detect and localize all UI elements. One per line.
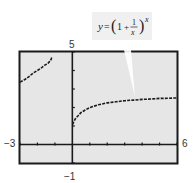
formula-denominator: x (130, 28, 135, 37)
xmin-label: −3 (4, 138, 16, 149)
formula-plus: + (124, 22, 129, 32)
formula-one: 1 (117, 21, 122, 32)
graphing-calculator-plot: y = ( 1 + 1 x ) x 5 −1 −3 6 (0, 0, 196, 183)
calculator-screen (20, 52, 178, 164)
ymax-label: 5 (69, 39, 75, 50)
formula-equals: = (104, 21, 110, 32)
formula-numerator: 1 (132, 18, 136, 27)
formula-paren-close: ) (139, 17, 144, 35)
ymin-label: −1 (64, 171, 76, 182)
formula-lhs: y (97, 20, 103, 32)
formula-exponent: x (144, 15, 149, 24)
xmax-label: 6 (182, 138, 188, 149)
formula-paren-open: ( (111, 17, 116, 35)
